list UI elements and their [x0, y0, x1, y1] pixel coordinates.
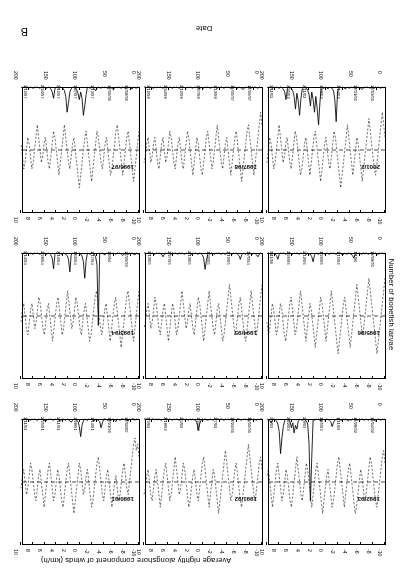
larvae-axis-tick-label: 50 [225, 71, 231, 77]
wind-axis-tick-label: -6 [231, 549, 237, 554]
season-panel: 12/10/9112/24/911/7/921/21/922/4/922/18/… [145, 395, 263, 545]
series-canvas [267, 419, 385, 545]
larvae-axis-tick-label: 150 [166, 403, 172, 412]
wind-axis-tick-label: 2 [184, 217, 190, 220]
wind-axis-tick-label: -4 [96, 549, 102, 554]
wind-axis-tick-label: 10 [259, 383, 265, 389]
plot-area: 12/13/0112/31/011/14/021/28/022/11/022/2… [268, 87, 386, 213]
season-label: 1991/92 [235, 496, 257, 503]
wind-axis-tick-label: 8 [25, 217, 31, 220]
season-label: 2001/2 [361, 164, 380, 171]
wind-axis-tick-label: -4 [342, 549, 348, 554]
larvae-axis-tick-label: 200 [259, 237, 265, 246]
wind-axis-tick-label: -6 [108, 549, 114, 554]
larvae-axis-tick-label: 100 [72, 403, 78, 412]
larvae-axis-tick-label: 50 [102, 237, 108, 243]
wind-axis-tick-label: 8 [148, 549, 154, 552]
wind-axis-tick-label: -8 [366, 383, 372, 388]
wind-axis-tick-label: 0 [72, 217, 78, 220]
panel-grid: 12/11/9012/21/901/14/911/28/912/11/912/2… [20, 47, 386, 545]
wind-axis-tick-label: -2 [207, 383, 213, 388]
season-label: 1993/94 [112, 330, 134, 337]
season-panel: 12/5/941/19/951/30/952/13/952/27/953/13/… [145, 229, 263, 379]
larvae-axis-tick-label: 150 [43, 71, 49, 80]
plot-area: 12/10/9112/24/911/7/921/21/922/4/922/18/… [145, 419, 263, 545]
wind-axis-tick-label: 8 [271, 549, 277, 552]
wind-axis-tick-label: 10 [259, 549, 265, 555]
larvae-series-line [21, 419, 139, 437]
wind-axis-tick-label: -6 [231, 383, 237, 388]
wind-axis-tick-label: 2 [184, 549, 190, 552]
wind-axis-tick-label: 6 [37, 383, 43, 386]
panel-row: 12/11/9012/21/901/14/911/28/912/11/912/2… [20, 379, 386, 545]
larvae-axis-tick-label: 200 [13, 237, 19, 246]
wind-axis-tick-label: 0 [195, 383, 201, 386]
wind-axis-tick-label: -2 [207, 549, 213, 554]
panel-row: 12/20/931/3/941/17/941/31/942/14/942/28/… [20, 213, 386, 379]
larvae-axis-tick-label: 50 [348, 237, 354, 243]
wind-axis-tick-label: -2 [207, 217, 213, 222]
wind-axis-tick-label: 8 [148, 383, 154, 386]
wind-axis-tick-label: -2 [84, 549, 90, 554]
larvae-axis-tick-label: 200 [13, 71, 19, 80]
wind-axis-tick-label: -2 [330, 383, 336, 388]
series-canvas [21, 87, 139, 213]
season-panel: 12/14/9212/28/921/11/931/25/932/8/932/22… [268, 395, 386, 545]
panel-row: 12/18/9612/30/961/13/971/27/972/10/972/2… [20, 47, 386, 213]
larvae-axis-tick-label: 150 [289, 237, 295, 246]
series-canvas [144, 87, 262, 213]
larvae-series-line [144, 419, 262, 430]
wind-axis-tick-label: -6 [108, 383, 114, 388]
wind-axis-tick-label: 4 [172, 217, 178, 220]
wind-axis-tick-label: 10 [136, 549, 142, 555]
season-panel: 12/20/931/3/941/17/941/31/942/14/942/28/… [22, 229, 140, 379]
wind-axis-tick-label: 6 [160, 383, 166, 386]
larvae-axis-tick-label: 200 [136, 237, 142, 246]
wind-axis-tick-label: -8 [366, 549, 372, 554]
series-canvas [267, 87, 385, 213]
x-axis-title: Date [174, 24, 234, 33]
plot-area: 12/20/931/3/941/17/941/31/942/14/942/28/… [22, 253, 140, 379]
plot-area: 12/5/941/19/951/30/952/13/952/27/953/13/… [145, 253, 263, 379]
wind-axis-tick-label: -8 [243, 217, 249, 222]
wind-axis-tick-label: -4 [219, 549, 225, 554]
wind-axis-tick-label: -2 [330, 217, 336, 222]
wind-axis-tick-label: 6 [37, 217, 43, 220]
wind-axis-tick-label: 2 [307, 383, 313, 386]
wind-axis-tick-label: -2 [330, 549, 336, 554]
larvae-series-line [267, 419, 385, 501]
larvae-axis-tick-label: 100 [195, 71, 201, 80]
larvae-series-line [21, 87, 139, 115]
wind-axis-tick-label: 8 [25, 549, 31, 552]
season-label: 1992/93 [358, 496, 380, 503]
plot-area: 12/16/9712/30/971/13/981/27/982/10/982/2… [145, 87, 263, 213]
wind-axis-tick-label: 0 [72, 549, 78, 552]
larvae-axis-tick-label: 150 [166, 71, 172, 80]
larvae-axis-tick-label: 100 [318, 403, 324, 412]
wind-axis-tick-label: 6 [160, 217, 166, 220]
season-label: 1990/91 [112, 496, 134, 503]
wind-series-line [21, 291, 139, 348]
wind-axis-tick-label: 0 [318, 383, 324, 386]
larvae-axis-tick-label: 100 [318, 237, 324, 246]
wind-axis-tick-label: 0 [195, 549, 201, 552]
larvae-axis-tick-label: 50 [102, 71, 108, 77]
panel-letter: B [21, 26, 28, 38]
wind-axis-tick-label: 6 [283, 217, 289, 220]
wind-axis-tick-label: -10 [377, 383, 383, 391]
season-panel: 12/16/9712/30/971/13/981/27/982/10/982/2… [145, 63, 263, 213]
season-panel: 12/18/951/1/961/15/961/29/962/12/962/26/… [268, 229, 386, 379]
wind-axis-tick-label: 2 [307, 217, 313, 220]
wind-axis-tick-label: 10 [13, 217, 19, 223]
wind-axis-tick-label: -8 [120, 383, 126, 388]
wind-axis-tick-label: 8 [148, 217, 154, 220]
season-label: 1996/97 [112, 164, 134, 171]
wind-axis-tick-label: -8 [243, 383, 249, 388]
wind-axis-tick-label: 4 [49, 217, 55, 220]
plot-area: 12/11/9012/21/901/14/911/28/912/11/912/2… [22, 419, 140, 545]
larvae-series-line [144, 87, 262, 90]
wind-axis-tick-label: -6 [354, 217, 360, 222]
larvae-series-line [21, 253, 139, 325]
larvae-series-line [267, 87, 385, 125]
wind-axis-tick-label: 4 [295, 549, 301, 552]
